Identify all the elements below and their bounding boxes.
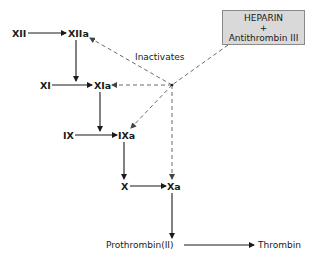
node-xi: XI [40, 80, 51, 91]
box-line-plus: + [223, 23, 304, 33]
heparin-antithrombin-box: HEPARIN + Antithrombin III [222, 10, 305, 45]
box-line-antithrombin: Antithrombin III [223, 33, 304, 43]
node-x: X [121, 181, 128, 192]
hub-point [171, 84, 174, 87]
node-xia: XIa [94, 80, 111, 91]
dash-box-to-hub [172, 45, 228, 85]
node-xa: Xa [167, 181, 181, 192]
node-ix: IX [63, 130, 74, 141]
node-xiia: XIIa [68, 28, 89, 39]
box-line-heparin: HEPARIN [223, 13, 304, 23]
node-thrombin: Thrombin [258, 240, 301, 251]
dash-hub-to-ixa [131, 85, 172, 128]
inactivates-label: Inactivates [135, 52, 184, 63]
node-ixa: IXa [118, 130, 135, 141]
node-xii: XII [12, 28, 26, 39]
node-prothrombin: Prothrombin(II) [106, 240, 174, 251]
